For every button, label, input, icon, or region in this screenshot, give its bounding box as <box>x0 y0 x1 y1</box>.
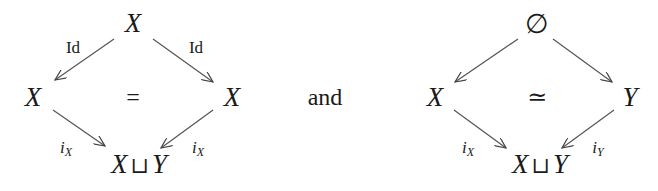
arrow-right-to-bottom <box>161 110 213 148</box>
arrow-empty-to-y <box>553 39 612 82</box>
arrow-top-to-right <box>153 39 213 82</box>
center-relation: = <box>126 85 140 109</box>
node-right: X <box>224 84 241 111</box>
node-left: X <box>427 84 444 111</box>
node-bottom: X⊔Y <box>111 151 167 178</box>
label-left-bottom: iX <box>462 139 474 158</box>
node-left: X <box>25 84 42 111</box>
center-relation: ≃ <box>527 85 547 109</box>
label-top-left: Id <box>66 39 80 56</box>
node-right: Y <box>622 84 637 111</box>
node-bottom: X⊔Y <box>512 151 568 178</box>
node-top: X <box>125 10 142 37</box>
arrow-empty-to-x <box>455 39 518 82</box>
label-right-bottom: iX <box>192 139 204 158</box>
label-right-bottom: iY <box>592 139 603 158</box>
node-empty-set: ∅ <box>525 11 549 38</box>
arrow-top-to-left <box>55 39 114 80</box>
label-left-bottom: iX <box>60 139 72 158</box>
connector-word: and <box>308 85 343 109</box>
label-top-right: Id <box>189 39 203 56</box>
arrow-y-to-bottom <box>562 110 614 148</box>
